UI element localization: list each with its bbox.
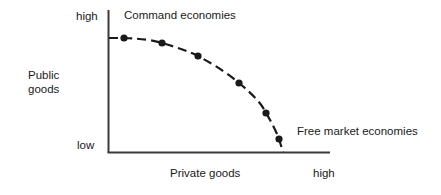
y-axis-tick-high: high bbox=[76, 10, 98, 23]
x-axis-tick-high: high bbox=[313, 167, 335, 180]
annotation-command-economies: Command economies bbox=[124, 9, 236, 22]
data-point-marker bbox=[120, 34, 127, 41]
data-point-marker bbox=[262, 109, 269, 116]
y-axis-label-line1: Public bbox=[28, 69, 59, 82]
production-possibility-frontier-chart: Public goods high low Command economies … bbox=[0, 0, 441, 195]
data-point-marker bbox=[194, 52, 201, 59]
y-axis-tick-low: low bbox=[77, 139, 94, 152]
data-point-marker bbox=[275, 135, 282, 142]
data-point-marker bbox=[235, 79, 242, 86]
data-point-marker bbox=[158, 39, 165, 46]
chart-canvas bbox=[0, 0, 441, 195]
annotation-free-market-economies: Free market economies bbox=[297, 125, 418, 138]
x-axis-label: Private goods bbox=[170, 167, 240, 180]
y-axis-label-line2: goods bbox=[28, 83, 59, 96]
